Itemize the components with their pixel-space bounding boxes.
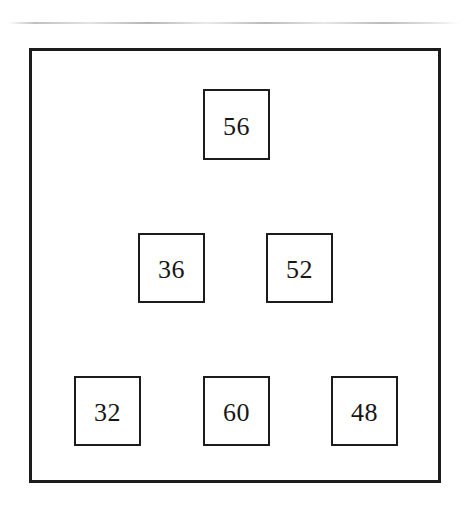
number-box-label: 56: [223, 114, 250, 140]
number-box-label: 60: [223, 400, 250, 426]
scan-line-artifact: [8, 22, 460, 24]
diagram-canvas: 56 36 52 32 60 48: [0, 0, 468, 508]
number-box-bottom-right[interactable]: 48: [331, 376, 398, 446]
number-box-bottom-left[interactable]: 32: [74, 376, 141, 446]
number-box-top[interactable]: 56: [203, 89, 270, 160]
number-box-label: 48: [351, 400, 378, 426]
number-box-middle-right[interactable]: 52: [266, 233, 333, 303]
number-box-middle-left[interactable]: 36: [138, 233, 205, 303]
number-box-label: 32: [94, 400, 121, 426]
number-box-label: 52: [286, 257, 313, 283]
number-box-label: 36: [158, 257, 185, 283]
number-box-bottom-center[interactable]: 60: [203, 376, 270, 446]
